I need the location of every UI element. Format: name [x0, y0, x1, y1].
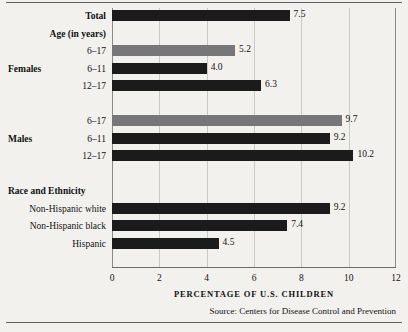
bar-chart-figure: 7.55.24.06.39.79.210.29.27.44.5 Total6–1…	[0, 0, 408, 332]
section-header-race: Race and Ethnicity	[8, 183, 86, 199]
x-axis-line	[112, 267, 396, 268]
x-tick-label-8: 8	[286, 271, 316, 285]
top-divider-rule	[6, 2, 402, 3]
bar-value-label: 7.5	[290, 6, 306, 22]
group-label-females: Females	[8, 61, 41, 77]
section-header-age: Age (in years)	[0, 26, 112, 42]
x-tick-label-4: 4	[192, 271, 222, 285]
bar-row: 5.2	[112, 43, 396, 59]
bar-value-label: 4.0	[207, 59, 223, 75]
bar-row: 10.2	[112, 148, 396, 164]
bar	[112, 45, 235, 56]
bar-value-label: 10.2	[353, 146, 374, 162]
category-label: Non-Hispanic white	[0, 201, 112, 217]
bar-value-label: 9.7	[342, 111, 358, 127]
bar	[112, 238, 219, 249]
category-label: 12–17	[0, 148, 112, 164]
bar	[112, 10, 290, 21]
bar	[112, 150, 353, 161]
bar	[112, 220, 287, 231]
x-tick-label-12: 12	[381, 271, 408, 285]
bar-row: 7.5	[112, 8, 396, 24]
bar-value-label: 6.3	[261, 76, 277, 92]
category-label: 6–17	[0, 113, 112, 129]
bar-row: 9.2	[112, 201, 396, 217]
bottom-divider-rule	[6, 322, 402, 323]
bar	[112, 115, 342, 126]
category-label: Total	[0, 8, 112, 24]
x-tick-label-0: 0	[97, 271, 127, 285]
bar-row: 4.0	[112, 61, 396, 77]
bar-value-label: 5.2	[235, 41, 251, 57]
bar-row: 4.5	[112, 236, 396, 252]
bar-value-label: 9.2	[330, 199, 346, 215]
source-note: Source: Centers for Disease Control and …	[210, 306, 396, 316]
bar-row: 7.4	[112, 218, 396, 234]
bar	[112, 133, 330, 144]
category-label: 12–17	[0, 78, 112, 94]
group-label-males: Males	[8, 131, 32, 147]
category-label: Non-Hispanic black	[0, 218, 112, 234]
category-label: 6–17	[0, 43, 112, 59]
x-axis-title: PERCENTAGE OF U.S. CHILDREN	[112, 289, 396, 299]
bar-row: 9.7	[112, 113, 396, 129]
bar	[112, 63, 207, 74]
bar-row: 6.3	[112, 78, 396, 94]
x-tick-label-6: 6	[239, 271, 269, 285]
bar	[112, 203, 330, 214]
bar-value-label: 4.5	[219, 234, 235, 250]
x-tick-label-2: 2	[144, 271, 174, 285]
bar-value-label: 7.4	[287, 216, 303, 232]
bar-value-label: 9.2	[330, 129, 346, 145]
plot-area: 7.55.24.06.39.79.210.29.27.44.5	[112, 8, 396, 267]
x-tick-label-10: 10	[334, 271, 364, 285]
bar	[112, 80, 261, 91]
category-label: Hispanic	[0, 236, 112, 252]
bar-row: 9.2	[112, 131, 396, 147]
